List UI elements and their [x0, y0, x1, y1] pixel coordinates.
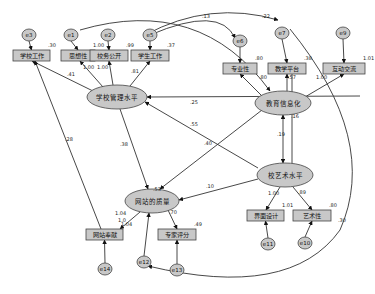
path-arrow [108, 41, 109, 50]
path-arrow [120, 109, 148, 189]
svg-text:e2: e2 [105, 32, 112, 38]
observed-variable: 互动交流1.01 [323, 55, 374, 74]
error-term: e14 [98, 263, 112, 275]
svg-text:专业性: 专业性 [231, 65, 249, 73]
path-coefficient: .10 [206, 183, 214, 189]
error-term: e5 [143, 29, 157, 41]
svg-text:学校管理水平: 学校管理水平 [96, 93, 138, 102]
svg-text:网站的质量: 网站的质量 [135, 197, 170, 206]
path-arrow [282, 39, 287, 63]
latent-variable: 教育信息化 [255, 91, 311, 115]
svg-text:界面设计: 界面设计 [254, 212, 278, 220]
svg-text:.49: .49 [194, 221, 202, 227]
svg-text:e14: e14 [100, 266, 111, 272]
svg-text:1.00: 1.00 [93, 42, 104, 48]
path-coefficient: 1.04 [115, 210, 126, 216]
covariance-arrow [145, 13, 278, 35]
error-term: e12 [137, 256, 151, 268]
path-arrow [109, 61, 113, 85]
observed-variable: 教学平台.38 [268, 55, 312, 74]
path-coefficient: .28 [65, 136, 73, 142]
path-arrow [144, 213, 149, 256]
path-coefficient: 1.0 [118, 217, 126, 223]
svg-text:e6: e6 [237, 38, 244, 44]
path-arrow [29, 41, 32, 50]
svg-text:互动交流: 互动交流 [332, 65, 356, 73]
path-coefficient: .25 [190, 99, 198, 105]
svg-text:.37: .37 [167, 42, 175, 48]
path-arrow [179, 179, 258, 200]
error-term: e7 [275, 27, 289, 39]
path-arrow [147, 96, 360, 97]
svg-text:e10: e10 [300, 240, 311, 246]
svg-text:.38: .38 [304, 55, 312, 61]
svg-text:e5: e5 [147, 32, 154, 38]
svg-text:1.01: 1.01 [363, 55, 374, 61]
observed-variable: 艺术性.80 [293, 202, 337, 221]
svg-text:e1: e1 [68, 32, 75, 38]
path-coefficient: .40 [204, 140, 212, 146]
path-coefficient: .16 [291, 113, 299, 119]
svg-text:e11: e11 [263, 241, 273, 247]
error-term: e10 [298, 237, 312, 249]
path-coefficient: .19 [277, 131, 285, 137]
svg-text:e7: e7 [279, 30, 286, 36]
path-coefficient: .89 [298, 189, 306, 195]
svg-text:.30: .30 [48, 42, 56, 48]
error-term: e13 [170, 264, 184, 276]
svg-text:学生工作: 学生工作 [138, 52, 162, 60]
svg-text:.80: .80 [255, 55, 263, 61]
observed-variable: 界面设计1.01 [247, 202, 293, 221]
path-coefficient: 1.00 [83, 64, 94, 70]
error-term: e3 [22, 29, 36, 41]
path-arrow [160, 110, 262, 189]
path-coefficient: .30 [338, 217, 346, 223]
observed-variable: 专家评分.49 [158, 221, 202, 240]
observed-variable: 学校工作.30 [13, 42, 56, 61]
svg-text:校务公开: 校务公开 [97, 52, 121, 60]
path-arrow [343, 39, 344, 63]
svg-text:思想性: 思想性 [69, 52, 87, 60]
svg-text:校艺术水平: 校艺术水平 [268, 171, 303, 180]
path-arrow [266, 221, 269, 238]
svg-text:e9: e9 [340, 30, 347, 36]
svg-text:e3: e3 [26, 32, 33, 38]
error-term: e2 [101, 29, 115, 41]
path-coefficient: .41 [67, 71, 75, 77]
path-coefficient: .38 [120, 141, 128, 147]
svg-text:艺术性: 艺术性 [303, 212, 321, 220]
error-term: e9 [336, 27, 350, 39]
path-arrow [145, 102, 258, 168]
path-coefficient: .13 [202, 13, 210, 19]
path-coefficient: .55 [190, 121, 198, 127]
path-coefficient: 1.00 [97, 64, 108, 70]
path-coefficient: .80 [259, 74, 267, 80]
path-coefficient: 1.00 [316, 74, 327, 80]
latent-variable: 学校管理水平 [87, 85, 147, 109]
error-term: e11 [261, 238, 275, 250]
error-term: e6 [233, 35, 247, 47]
path-coefficient: .70 [169, 209, 177, 215]
svg-text:e13: e13 [172, 267, 183, 273]
svg-text:1.01: 1.01 [282, 202, 293, 208]
sem-path-diagram: 学校管理水平教育信息化校艺术水平网站的质量学校工作.30思想性1.00校务公开.… [0, 0, 375, 294]
path-coefficient: 1.00 [268, 190, 279, 196]
path-coefficient: .53 [153, 186, 161, 192]
svg-text:e12: e12 [139, 259, 149, 265]
path-arrow [71, 41, 78, 50]
svg-text:网站奉献: 网站奉献 [93, 231, 117, 239]
error-term: e1 [64, 29, 78, 41]
path-arrow [305, 221, 312, 237]
path-arrow [35, 61, 101, 229]
diagram-canvas: 学校管理水平教育信息化校艺术水平网站的质量学校工作.30思想性1.00校务公开.… [0, 0, 375, 294]
observed-variable: 专业性.80 [223, 55, 263, 74]
path-coefficient: .81 [131, 68, 139, 74]
observed-variable: 网站奉献1.04 [86, 221, 132, 240]
svg-text:专家评分: 专家评分 [165, 231, 189, 239]
svg-text:教学平台: 教学平台 [275, 65, 299, 73]
path-coefficient: .22 [262, 13, 270, 19]
svg-text:学校工作: 学校工作 [20, 52, 44, 60]
observed-variable: 学生工作.37 [131, 42, 175, 61]
svg-text:教育信息化: 教育信息化 [266, 99, 301, 108]
path-coefficient: .57 [288, 74, 296, 80]
